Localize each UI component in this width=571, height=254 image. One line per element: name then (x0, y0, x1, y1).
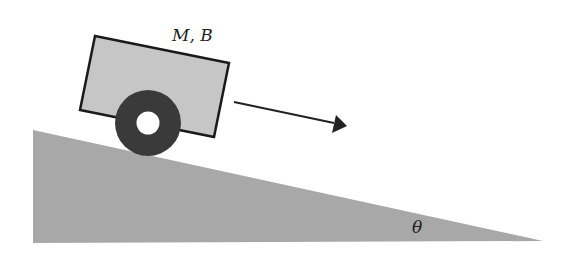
incline-plane (33, 130, 543, 243)
incline-diagram: M, B θ (0, 0, 571, 254)
wheel-hub (137, 112, 160, 135)
angle-label: θ (412, 217, 422, 237)
motion-arrow-icon (234, 102, 347, 133)
cart-label: M, B (171, 25, 213, 45)
cart-wheel (115, 90, 181, 156)
